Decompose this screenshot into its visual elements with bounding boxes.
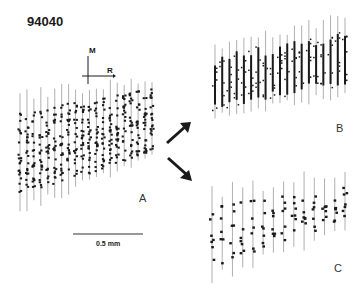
scale-bar-label: 0.5 mm	[96, 240, 120, 247]
arrow-to-B-icon	[167, 122, 191, 143]
orientation-label-r: R	[107, 66, 113, 75]
panel-label-a: A	[139, 192, 146, 204]
panel-label-b: B	[336, 122, 343, 134]
arrow-to-C-icon	[168, 158, 192, 181]
figure-canvas	[0, 0, 362, 288]
orientation-label-m: M	[89, 46, 96, 55]
panel-label-c: C	[334, 262, 342, 274]
panel-c	[209, 171, 348, 283]
panel-a	[17, 79, 154, 212]
panel-b	[212, 15, 348, 118]
